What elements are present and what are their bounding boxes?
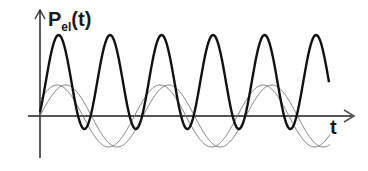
y-axis-label: Pel(t) — [48, 8, 91, 34]
x-axis-label: t — [330, 116, 337, 139]
